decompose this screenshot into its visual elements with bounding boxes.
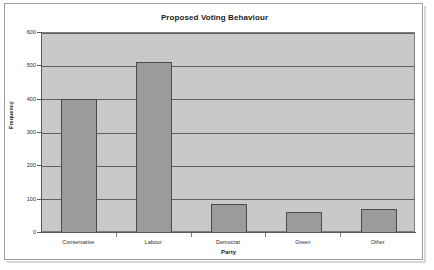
y-axis-tick-label: 400 (10, 96, 36, 102)
y-axis-tick-label: 300 (10, 129, 36, 135)
chart-frame: Proposed Voting Behaviour Frequency 0100… (4, 3, 423, 260)
x-axis-tick (265, 233, 266, 237)
gridline (42, 166, 414, 167)
y-axis-tick-label: 0 (10, 229, 36, 235)
x-axis-tick-label: Democrat (216, 239, 240, 245)
chart-title: Proposed Voting Behaviour (5, 13, 424, 22)
x-axis-tick-label: Conservative (62, 239, 94, 245)
y-axis-tick-label: 500 (10, 62, 36, 68)
x-axis-tick (191, 233, 192, 237)
bar-green[interactable] (286, 212, 322, 233)
y-axis-tick-labels: 0100200300400500600 (5, 32, 36, 232)
y-axis-tick-label: 600 (10, 29, 36, 35)
y-axis-tick-label: 200 (10, 162, 36, 168)
x-axis-tick (340, 233, 341, 237)
y-axis-tick (37, 165, 41, 166)
gridline (42, 99, 414, 100)
bar-conservative[interactable] (61, 99, 97, 233)
y-axis-tick (37, 32, 41, 33)
bar-democrat[interactable] (211, 204, 247, 233)
y-axis-tick (37, 232, 41, 233)
plot-inner (42, 33, 414, 231)
x-axis-line (41, 232, 416, 233)
y-axis-tick (37, 199, 41, 200)
gridline (42, 33, 414, 34)
bar-labour[interactable] (136, 62, 172, 233)
plot-area (41, 32, 415, 232)
frame-shadow-right (424, 6, 426, 263)
x-axis-tick-label: Green (295, 239, 310, 245)
x-axis-tick-label: Labour (145, 239, 162, 245)
gridline (42, 199, 414, 200)
gridline (42, 66, 414, 67)
frame-shadow-bottom (7, 261, 426, 263)
x-axis-tick-label: Other (371, 239, 385, 245)
gridline (42, 133, 414, 134)
y-axis-tick (37, 65, 41, 66)
y-axis-tick (37, 132, 41, 133)
y-axis-line (41, 32, 42, 233)
bar-other[interactable] (361, 209, 397, 233)
y-axis-tick-label: 100 (10, 196, 36, 202)
x-axis-title: Party (41, 249, 416, 255)
x-axis-tick (116, 233, 117, 237)
y-axis-tick (37, 99, 41, 100)
